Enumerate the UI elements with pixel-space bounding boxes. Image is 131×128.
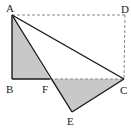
label-e: E bbox=[67, 115, 74, 127]
label-a: A bbox=[6, 2, 14, 14]
label-b: B bbox=[6, 83, 13, 95]
label-c: C bbox=[120, 84, 127, 96]
label-d: D bbox=[121, 3, 129, 15]
segment-dc-dashed bbox=[124, 15, 125, 79]
geometry-diagram: A D B F C E bbox=[0, 0, 131, 128]
label-f: F bbox=[42, 83, 48, 95]
